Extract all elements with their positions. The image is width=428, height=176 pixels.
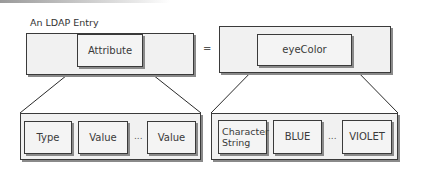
equals-sign: = — [203, 43, 211, 54]
eyecolor-label: eyeColor — [282, 44, 326, 56]
type-box: Type — [24, 121, 72, 154]
top-rule — [0, 0, 170, 3]
attribute-box: Attribute — [77, 34, 143, 67]
violet-label: VIOLET — [349, 131, 385, 143]
type-label: Type — [37, 132, 60, 144]
value-label-2: Value — [158, 132, 185, 144]
ellipsis-left: ... — [134, 131, 143, 141]
ellipsis-right: ... — [328, 131, 337, 141]
diagram-title: An LDAP Entry — [30, 17, 99, 28]
eyecolor-box: eyeColor — [257, 34, 352, 66]
blue-label: BLUE — [285, 131, 311, 143]
value-label-1: Value — [89, 132, 116, 144]
attribute-label: Attribute — [88, 45, 132, 57]
connector-right-a — [211, 66, 257, 113]
blue-box: BLUE — [273, 120, 322, 154]
connector-right-b — [352, 66, 398, 113]
value-box-1: Value — [78, 121, 128, 154]
character-string-box: Character String — [218, 120, 267, 154]
violet-box: VIOLET — [342, 120, 392, 154]
value-box-2: Value — [147, 121, 196, 154]
character-string-label: Character String — [222, 126, 269, 149]
